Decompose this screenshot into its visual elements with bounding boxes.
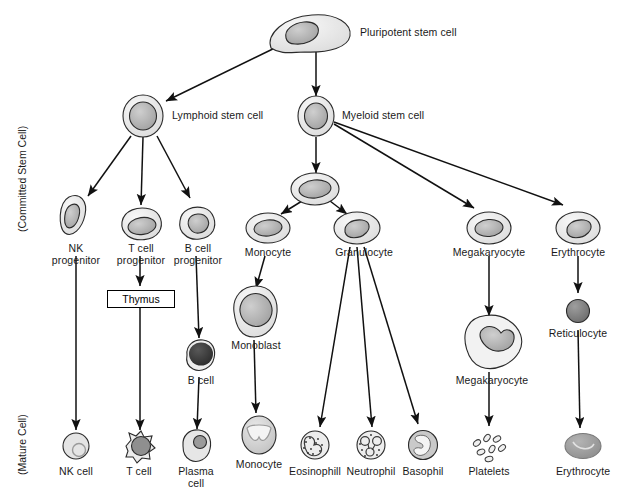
monocyte-precursor-glyph bbox=[246, 213, 290, 243]
monocyte-glyph bbox=[242, 416, 276, 454]
axis-label-mature-cell: (Mature Cell) bbox=[16, 414, 28, 475]
node-label-reticulocyte: Reticulocyte bbox=[549, 328, 607, 340]
eosinophil-glyph bbox=[301, 431, 329, 459]
myeloid-intermediate-glyph bbox=[291, 173, 339, 205]
t-cell-glyph bbox=[126, 431, 155, 463]
neutrophil-glyph bbox=[357, 431, 385, 459]
edge-monocyteprec-to-monoblast bbox=[256, 256, 265, 288]
edge-granulocyte-to-neutrophil bbox=[357, 247, 372, 427]
node-label-monocyte: Monocyte bbox=[236, 459, 282, 471]
cell-group bbox=[60, 15, 601, 463]
reticulocyte-glyph bbox=[567, 300, 590, 323]
node-label-t-cell-progenitor: T cell progenitor bbox=[117, 243, 165, 266]
node-label-t-cell: T cell bbox=[126, 466, 152, 478]
thymus-box: Thymus bbox=[107, 290, 175, 308]
node-label-myeloid-stem-cell: Myeloid stem cell bbox=[342, 110, 424, 122]
node-label-plasma-cell: Plasma cell bbox=[178, 466, 214, 489]
edge-granulocyte-to-basophil bbox=[364, 247, 418, 424]
edge-lymphoid-to-nk bbox=[88, 136, 131, 196]
myeloid-stem-cell-glyph bbox=[298, 96, 334, 136]
edge-granulocyte-to-eosinophil bbox=[320, 247, 350, 427]
megakaryocyte-precursor-glyph bbox=[467, 212, 511, 244]
node-label-megakaryocyte-precursor: Megakaryocyte bbox=[453, 247, 526, 259]
edge-lymphoid-to-tcell bbox=[141, 137, 143, 205]
axis-label-committed-stem-cell: (Committed Stem Cell) bbox=[16, 126, 28, 232]
node-label-b-cell-progenitor: B cell progenitor bbox=[174, 243, 222, 266]
node-label-pluripotent-stem-cell: Pluripotent stem cell bbox=[360, 27, 457, 39]
edge-intermediate-to-granulocyte bbox=[330, 201, 347, 214]
edge-myeloid-to-megakaryocyte bbox=[334, 124, 474, 208]
node-label-basophil: Basophil bbox=[402, 466, 443, 478]
node-label-lymphoid-stem-cell: Lymphoid stem cell bbox=[172, 110, 263, 122]
basophil-glyph bbox=[409, 431, 438, 460]
node-label-megakaryocyte: Megakaryocyte bbox=[456, 375, 529, 387]
edge-bprog-to-bcell bbox=[196, 256, 199, 338]
lymphoid-stem-cell-glyph bbox=[123, 95, 163, 137]
node-label-nk-progenitor: NK progenitor bbox=[52, 243, 100, 266]
pluripotent-stem-cell-glyph bbox=[270, 15, 350, 53]
node-label-monocyte-precursor: Monocyte bbox=[245, 247, 291, 259]
b-cell-glyph bbox=[187, 340, 215, 370]
edge-intermediate-to-monocyte bbox=[281, 201, 302, 214]
erythrocyte-precursor-glyph bbox=[556, 212, 600, 244]
t-cell-progenitor-glyph bbox=[122, 208, 162, 240]
platelets-glyph bbox=[472, 433, 506, 462]
node-label-nk-cell: NK cell bbox=[59, 466, 93, 478]
edge-lymphoid-to-bcell bbox=[157, 136, 190, 198]
node-label-neutrophil: Neutrophil bbox=[347, 466, 396, 478]
node-label-granulocyte: Granulocyte bbox=[335, 247, 393, 259]
nk-cell-glyph bbox=[63, 433, 89, 459]
granulocyte-glyph bbox=[334, 212, 380, 244]
hematopoiesis-diagram: (Committed Stem Cell) (Mature Cell) Thym… bbox=[0, 0, 638, 502]
erythrocyte-glyph bbox=[565, 434, 601, 459]
megakaryocyte-glyph bbox=[465, 315, 522, 368]
node-label-eosinophil: Eosinophill bbox=[289, 466, 341, 478]
edge-reticulocyte-to-erythrocyte bbox=[578, 330, 580, 428]
plasma-cell-glyph bbox=[183, 430, 211, 461]
nk-progenitor-glyph bbox=[60, 196, 85, 235]
node-label-erythrocyte: Erythrocyte bbox=[556, 466, 610, 478]
node-label-platelets: Platelets bbox=[468, 466, 509, 478]
node-label-b-cell: B cell bbox=[188, 375, 214, 387]
edge-pluripotent-to-lymphoid bbox=[166, 45, 281, 101]
monoblast-glyph bbox=[234, 286, 277, 337]
node-label-monoblast: Monoblast bbox=[231, 340, 280, 352]
node-label-erythrocyte-precursor: Erythrocyte bbox=[551, 247, 605, 259]
b-cell-progenitor-glyph bbox=[180, 207, 215, 239]
